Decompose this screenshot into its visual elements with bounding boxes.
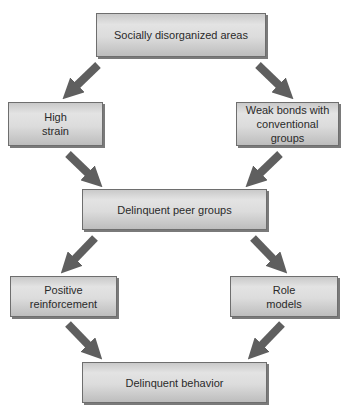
arrow-positive-to-behavior <box>68 324 95 352</box>
arrow-peer-to-positive <box>68 238 95 266</box>
node-role-models: Role models <box>230 276 338 317</box>
arrow-peer-to-role <box>253 238 280 266</box>
node-label: Delinquent behavior <box>126 376 224 390</box>
node-socially-disorganized-areas: Socially disorganized areas <box>96 13 266 57</box>
node-label: High strain <box>42 110 69 138</box>
node-delinquent-behavior: Delinquent behavior <box>82 362 267 403</box>
node-label: Role models <box>266 283 301 311</box>
node-weak-bonds: Weak bonds with conventional groups <box>236 102 339 146</box>
node-label: Socially disorganized areas <box>114 28 248 42</box>
node-positive-reinforcement: Positive reinforcement <box>10 276 117 317</box>
node-label: Positive reinforcement <box>30 283 97 311</box>
arrow-top-to-weak-bonds <box>258 65 286 92</box>
arrow-weak-bonds-to-peer <box>253 154 280 180</box>
node-label: Delinquent peer groups <box>117 203 231 217</box>
arrow-top-to-high-strain <box>70 65 98 92</box>
arrow-high-strain-to-peer <box>68 154 95 180</box>
node-delinquent-peer-groups: Delinquent peer groups <box>82 189 267 230</box>
arrow-role-to-behavior <box>255 324 282 352</box>
node-label: Weak bonds with conventional groups <box>241 103 334 145</box>
node-high-strain: High strain <box>8 102 103 146</box>
